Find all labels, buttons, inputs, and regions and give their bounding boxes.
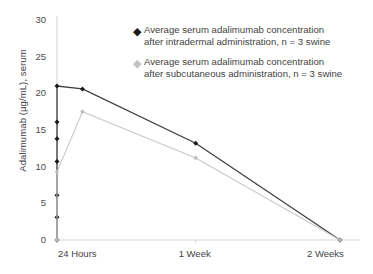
x-axis-tick-label: 2 Weeks	[307, 249, 344, 259]
data-point-marker	[55, 159, 60, 164]
data-point-marker	[55, 84, 60, 89]
series-line	[57, 86, 340, 240]
legend-label-line1: Average serum adalimumab concentration	[144, 24, 330, 36]
legend-item-label: Average serum adalimumab concentration a…	[144, 56, 342, 81]
data-point-marker	[55, 136, 60, 141]
data-point-marker	[193, 156, 198, 161]
series-line	[57, 112, 340, 240]
legend-label-line1: Average serum adalimumab concentration	[144, 56, 342, 68]
data-point-marker	[55, 170, 60, 175]
legend-label-line2: after intradermal administration, n = 3 …	[144, 36, 330, 48]
legend-item-subcutaneous: ◆ Average serum adalimumab concentration…	[130, 56, 370, 81]
data-point-marker	[80, 86, 85, 91]
data-point-marker	[80, 109, 85, 114]
x-axis-tick-label: 24 Hours	[58, 249, 97, 259]
diamond-marker-icon: ◆	[130, 56, 144, 69]
chart-legend: ◆ Average serum adalimumab concentration…	[130, 24, 370, 88]
chart-container: Adalimumab (µg/mL), serum 051015202530 2…	[0, 0, 373, 274]
legend-item-label: Average serum adalimumab concentration a…	[144, 24, 330, 49]
legend-item-intradermal: ◆ Average serum adalimumab concentration…	[130, 24, 370, 49]
data-point-marker	[55, 119, 60, 124]
x-axis-tick-label: 1 Week	[179, 249, 211, 259]
data-point-marker	[55, 238, 60, 243]
diamond-marker-icon: ◆	[130, 24, 144, 37]
legend-label-line2: after subcutaneous administration, n = 3…	[144, 68, 342, 80]
